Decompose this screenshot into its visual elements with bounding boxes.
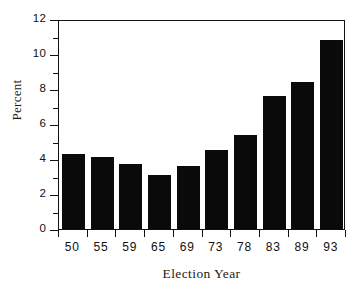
plot-area — [58, 20, 345, 230]
bar — [91, 157, 114, 229]
bar — [62, 154, 85, 229]
x-axis-tick — [202, 230, 203, 237]
x-axis-tick-label: 93 — [311, 240, 351, 254]
y-axis-minor-tick — [53, 38, 58, 39]
x-axis-tick — [316, 230, 317, 237]
bar-series — [59, 21, 344, 229]
y-axis-tick-label: 4 — [6, 152, 46, 164]
y-axis-minor-tick — [53, 143, 58, 144]
bar — [291, 82, 314, 229]
y-axis-tick — [50, 90, 58, 91]
y-axis-minor-tick — [53, 108, 58, 109]
x-axis-tick — [87, 230, 88, 237]
y-axis-tick-label: 2 — [6, 187, 46, 199]
y-axis-tick-label: 6 — [6, 117, 46, 129]
bar — [263, 96, 286, 229]
y-axis-tick — [50, 230, 58, 231]
y-axis-minor-tick — [53, 73, 58, 74]
bar — [148, 175, 171, 229]
y-axis-tick — [50, 195, 58, 196]
bar — [320, 40, 343, 229]
x-axis-tick — [288, 230, 289, 237]
y-axis-tick — [50, 160, 58, 161]
y-axis-tick-label: 0 — [6, 222, 46, 234]
x-axis-tick — [345, 230, 346, 237]
x-axis-tick — [144, 230, 145, 237]
bar — [205, 150, 228, 229]
chart-page: Percent Election Year 024681012505559656… — [0, 0, 360, 296]
bar — [177, 166, 200, 229]
bar — [119, 164, 142, 229]
y-axis-tick-label: 10 — [6, 47, 46, 59]
x-axis-title: Election Year — [58, 266, 345, 282]
x-axis-tick — [259, 230, 260, 237]
y-axis-tick — [50, 125, 58, 126]
x-axis-tick — [58, 230, 59, 237]
bar — [234, 135, 257, 230]
y-axis-tick-label: 8 — [6, 82, 46, 94]
x-axis-tick — [115, 230, 116, 237]
y-axis-minor-tick — [53, 178, 58, 179]
y-axis-minor-tick — [53, 213, 58, 214]
y-axis-tick — [50, 20, 58, 21]
y-axis-tick — [50, 55, 58, 56]
x-axis-tick — [230, 230, 231, 237]
y-axis-tick-label: 12 — [6, 12, 46, 24]
x-axis-tick — [173, 230, 174, 237]
